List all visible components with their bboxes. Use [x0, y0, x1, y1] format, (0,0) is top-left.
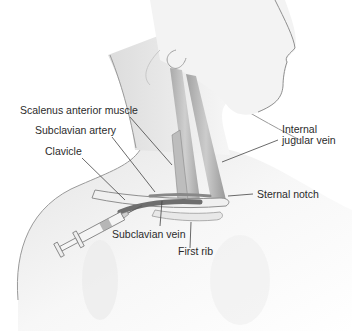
label-subclavian-vein: Subclavian vein	[112, 228, 186, 240]
anatomy-drawing	[0, 0, 352, 331]
label-subclavian-artery: Subclavian artery	[35, 124, 116, 136]
label-first-rib: First rib	[178, 245, 213, 257]
label-sternal-notch: Sternal notch	[257, 188, 319, 200]
label-internal-jugular-vein-line2: jugular vein	[282, 134, 336, 146]
label-clavicle: Clavicle	[45, 145, 82, 157]
anatomy-illustration: Scalenus anterior muscle Subclavian arte…	[0, 0, 352, 331]
label-scalenus-anterior-muscle: Scalenus anterior muscle	[20, 104, 138, 116]
